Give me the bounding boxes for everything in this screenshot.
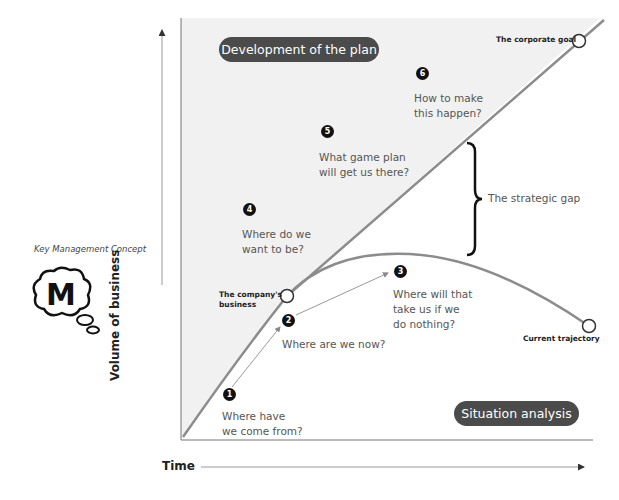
- strategic-gap-label: The strategic gap: [488, 192, 580, 204]
- step-question-2: Where are we now?: [282, 337, 385, 352]
- company-business-label: The company's business: [219, 290, 282, 310]
- strategic-gap-brace: [467, 143, 482, 255]
- step-marker-4: 4: [243, 203, 256, 216]
- corporate-goal-label: The corporate goal: [496, 35, 576, 45]
- company-business-point: [281, 290, 294, 303]
- current-trajectory-point: [583, 320, 596, 333]
- x-axis-label: Time: [162, 459, 195, 473]
- step-question-3: Where will that take us if we do nothing…: [393, 287, 472, 332]
- step-marker-1: 1: [223, 388, 236, 401]
- key-management-concept-caption: Key Management Concept: [34, 244, 146, 254]
- step-marker-3: 3: [394, 265, 407, 278]
- step-marker-6: 6: [416, 67, 429, 80]
- step-question-5: What game plan will get us there?: [319, 150, 409, 180]
- step-marker-5: 5: [321, 125, 334, 138]
- situation-analysis-label: Situation analysis: [454, 401, 579, 426]
- step-question-4: Where do we want to be?: [242, 227, 311, 257]
- current-trajectory-label: Current trajectory: [523, 334, 600, 344]
- thought-cloud-icon: M: [28, 265, 103, 337]
- y-axis-label: Volume of business: [108, 250, 122, 381]
- development-of-plan-label: Development of the plan: [219, 37, 379, 62]
- step-question-1: Where have we come from?: [222, 409, 303, 439]
- arrow-2-to-3: [296, 273, 388, 315]
- svg-text:M: M: [46, 277, 76, 312]
- step-marker-2: 2: [282, 314, 295, 327]
- key-management-logo: M: [28, 265, 103, 341]
- step-question-6: How to make this happen?: [414, 91, 483, 121]
